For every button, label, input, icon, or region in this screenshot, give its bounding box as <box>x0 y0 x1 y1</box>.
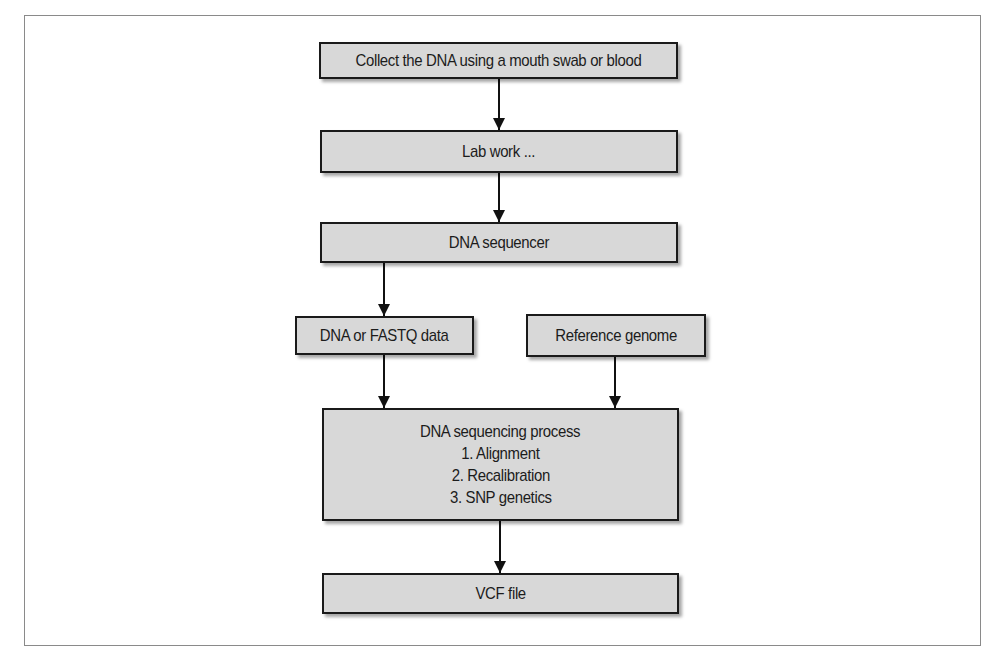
node-fastq-data-label: DNA or FASTQ data <box>320 325 449 347</box>
node-sequencing-process-label: DNA sequencing process <box>420 421 580 443</box>
arrows-layer <box>0 0 1004 657</box>
process-step: 1. Alignment <box>461 443 539 465</box>
node-fastq-data: DNA or FASTQ data <box>295 316 474 355</box>
arrowhead-icon <box>493 210 505 222</box>
node-vcf-file-label: VCF file <box>475 583 525 605</box>
process-step: 2. Recalibration <box>451 465 549 487</box>
node-reference-genome: Reference genome <box>526 314 706 357</box>
node-dna-sequencer-label: DNA sequencer <box>449 232 549 254</box>
arrowhead-icon <box>378 304 390 316</box>
node-sequencing-process: DNA sequencing process 1. Alignment 2. R… <box>322 408 679 521</box>
node-lab-work-label: Lab work ... <box>462 141 535 163</box>
arrowhead-icon <box>494 561 506 573</box>
arrowhead-icon <box>609 396 621 408</box>
arrowhead-icon <box>378 396 390 408</box>
node-vcf-file: VCF file <box>322 573 679 614</box>
process-step: 3. SNP genetics <box>450 487 552 509</box>
arrowhead-icon <box>493 118 505 130</box>
node-reference-genome-label: Reference genome <box>555 325 677 347</box>
node-collect-label: Collect the DNA using a mouth swab or bl… <box>356 50 642 72</box>
node-dna-sequencer: DNA sequencer <box>320 222 678 263</box>
node-lab-work: Lab work ... <box>320 130 678 173</box>
node-collect: Collect the DNA using a mouth swab or bl… <box>319 42 678 79</box>
